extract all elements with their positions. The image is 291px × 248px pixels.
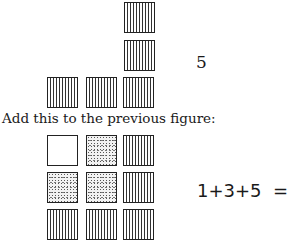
equation: 1+3+5 = 9 — [197, 180, 291, 201]
square-lined — [123, 209, 154, 240]
square-lined — [86, 209, 117, 240]
square-lined — [124, 40, 155, 71]
caption: Add this to the previous figure: — [2, 110, 216, 126]
square-dotted — [47, 172, 78, 203]
square-lined — [123, 135, 154, 166]
count-label: 5 — [196, 52, 207, 72]
square-blank — [47, 135, 78, 166]
square-dotted — [86, 135, 117, 166]
square-lined — [123, 172, 154, 203]
square-lined — [86, 77, 117, 108]
square-lined — [47, 209, 78, 240]
square-lined — [47, 77, 78, 108]
square-lined — [124, 2, 155, 33]
square-dotted — [86, 172, 117, 203]
square-lined — [123, 77, 154, 108]
